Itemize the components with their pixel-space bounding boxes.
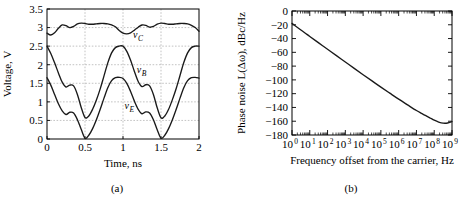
y-tick-label: −80 [271,60,289,72]
y-tick-label: 3.5 [29,3,43,15]
x-tick-label: 1 [120,141,126,153]
x-tick-label: 104 [353,137,369,151]
subcaption-a: (a) [0,182,234,194]
x-tick-label-base: 10 [335,138,347,150]
x-tick-label-base: 10 [353,138,365,150]
x-tick-label-exponent: 8 [436,137,440,146]
curve-label-subscript: C [138,34,144,43]
x-tick-label-base: 10 [318,138,330,150]
y-tick-label: −60 [271,46,289,58]
y-tick-label: −160 [265,115,288,127]
x-tick-label: 100 [282,137,298,151]
x-tick-label-base: 10 [406,138,418,150]
x-axis-b: 100101102103104105106107108109 [282,11,458,150]
x-tick-label-base: 10 [371,138,383,150]
y-axis-title-a: Voltage, V [1,51,13,98]
x-tick-label: 2 [196,141,202,153]
phase-noise-chart: 0−20−40−60−80−100−120−140−160−1801001011… [234,0,468,180]
x-tick-label-exponent: 0 [294,137,298,146]
y-tick-label: 2.5 [29,40,43,52]
y-tick-label: 1.5 [29,77,43,89]
x-tick-label: 102 [318,137,334,151]
x-axis-title-b: Frequency offset from the carrier, Hz [290,154,454,166]
x-tick-label-exponent: 2 [330,137,334,146]
x-tick-label-base: 10 [282,138,294,150]
y-tick-label: 0 [38,133,44,145]
x-tick-label: 103 [335,137,351,151]
x-tick-label-exponent: 1 [312,137,316,146]
x-tick-label-exponent: 7 [419,137,423,146]
x-tick-label-exponent: 6 [401,137,405,146]
x-tick-label: 105 [371,137,387,151]
y-tick-label: −20 [271,19,289,31]
x-tick-label-base: 10 [424,138,436,150]
y-axis-title-b: Phase noise L(Δω), dBc/Hz [235,12,248,134]
x-tick-label: 108 [424,137,440,151]
curve-label-vB: vB [137,64,147,78]
y-tick-label: 0 [283,5,289,17]
x-tick-label-base: 10 [300,138,312,150]
x-tick-label-base: 10 [442,138,454,150]
curve-phase-noise [292,23,452,123]
y-tick-label: 1 [38,96,44,108]
curve-label-subscript: B [142,69,147,78]
y-tick-label: 2 [38,59,44,71]
x-tick-label: 107 [406,137,422,151]
x-tick-label-exponent: 3 [347,137,351,146]
subcaption-b: (b) [234,182,468,194]
curve-annotations-a: vCvBvE [125,29,147,114]
x-tick-label: 0.5 [78,141,92,153]
y-tick-label: −120 [265,87,288,99]
x-tick-label-exponent: 9 [454,137,458,146]
x-tick-label-base: 10 [389,138,401,150]
x-tick-label: 101 [300,137,316,151]
grid-lines-a [47,9,199,139]
x-axis-title-a: Time, ns [104,157,142,169]
curve-label-vE: vE [125,100,135,114]
y-tick-label: 0.5 [29,114,43,126]
y-tick-label: −100 [265,74,288,86]
x-tick-label: 1.5 [154,141,168,153]
curve-label-subscript: E [129,105,135,114]
voltage-waveform-chart: 00.511.522.533.500.511.52Time, nsVoltage… [0,0,234,180]
x-tick-label: 0 [44,141,50,153]
x-tick-label: 109 [442,137,458,151]
panel-a-voltage-waveforms: 00.511.522.533.500.511.52Time, nsVoltage… [0,0,234,204]
y-tick-label: −140 [265,101,288,113]
curve-label-vC: vC [133,29,144,43]
y-tick-label: −40 [271,32,289,44]
figure-container: 00.511.522.533.500.511.52Time, nsVoltage… [0,0,468,204]
y-tick-label: 3 [38,21,44,33]
x-tick-label-exponent: 5 [383,137,387,146]
x-tick-label-exponent: 4 [365,137,369,146]
x-tick-label: 106 [389,137,405,151]
panel-b-phase-noise: 0−20−40−60−80−100−120−140−160−1801001011… [234,0,468,204]
